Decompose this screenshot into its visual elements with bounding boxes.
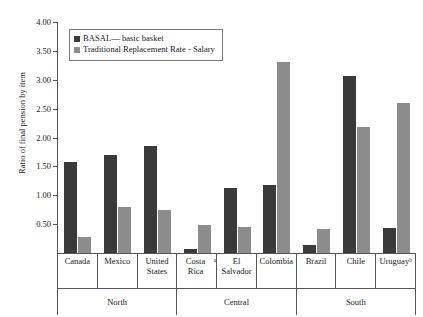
bar-traditional[interactable] <box>118 207 131 253</box>
bar-basal[interactable] <box>343 76 356 253</box>
bar-traditional[interactable] <box>357 127 370 253</box>
x-category-label: Costa Ricaa <box>176 254 216 288</box>
bar-traditional[interactable] <box>238 227 251 253</box>
bar-basal[interactable] <box>64 162 77 253</box>
region-label: South <box>296 288 416 315</box>
region-label: Central <box>176 288 295 315</box>
bar-traditional[interactable] <box>78 237 91 253</box>
legend-item-basal: BASAL— basic basket <box>74 33 215 44</box>
legend-label-traditional: Traditional Replacement Rate - Salary <box>83 44 215 55</box>
bar-traditional[interactable] <box>158 210 171 253</box>
y-tick-label: 2.00 <box>36 133 51 143</box>
bar-basal[interactable] <box>144 146 157 253</box>
bar-traditional[interactable] <box>277 62 290 253</box>
y-tick-label: 3.00 <box>36 75 51 85</box>
x-category-label: Canada <box>57 254 97 288</box>
x-category-label: Brazil <box>296 254 336 288</box>
bar-basal[interactable] <box>263 185 276 253</box>
bar-basal[interactable] <box>224 188 237 253</box>
x-category-label: El Salvador <box>216 254 256 288</box>
bar-traditional[interactable] <box>317 229 330 253</box>
bar-group <box>257 22 297 253</box>
category-axis: CanadaMexicoUnited StatesCosta RicaaEl S… <box>57 254 416 289</box>
x-category-label: United States <box>137 254 177 288</box>
y-tick-label: 4.00 <box>36 17 51 27</box>
legend-swatch-basal <box>74 36 80 42</box>
legend-swatch-traditional <box>74 47 80 53</box>
footnote-marker: b <box>409 257 412 263</box>
bar-group <box>297 22 337 253</box>
bar-group <box>336 22 376 253</box>
x-category-label: Colombia <box>256 254 296 288</box>
bar-basal[interactable] <box>383 228 396 253</box>
y-tick-label: 2.50 <box>36 104 51 114</box>
x-category-label: Mexico <box>97 254 137 288</box>
bar-basal[interactable] <box>104 155 117 253</box>
bar-traditional[interactable] <box>397 103 410 253</box>
bar-basal[interactable] <box>184 249 197 253</box>
region-axis: NorthCentralSouth <box>57 288 416 315</box>
region-label: North <box>57 288 176 315</box>
legend-item-traditional: Traditional Replacement Rate - Salary <box>74 44 215 55</box>
bar-group <box>376 22 416 253</box>
x-category-label: Uruguayb <box>375 254 416 288</box>
y-axis-title: Ratio of final pension by item <box>17 23 27 223</box>
legend-label-basal: BASAL— basic basket <box>83 33 164 44</box>
y-tick-label: 0.50 <box>36 219 51 229</box>
x-category-label: Chile <box>335 254 375 288</box>
bar-group <box>217 22 257 253</box>
chart-legend: BASAL— basic basket Traditional Replacem… <box>69 29 223 61</box>
bar-basal[interactable] <box>303 245 316 253</box>
bar-traditional[interactable] <box>198 225 211 253</box>
y-tick-label: 1.50 <box>36 161 51 171</box>
y-tick-label: 3.50 <box>36 46 51 56</box>
chart-container: Ratio of final pension by item 4.003.503… <box>0 0 423 317</box>
y-tick-label: 1.00 <box>36 190 51 200</box>
